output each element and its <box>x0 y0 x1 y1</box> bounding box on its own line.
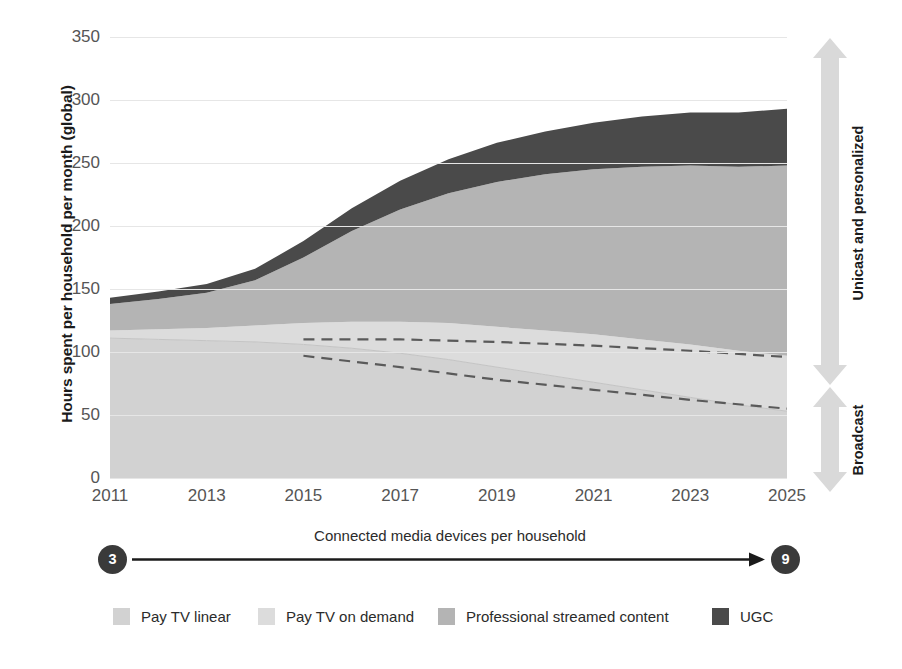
range-annotations: Unicast and personalized Broadcast <box>800 30 902 500</box>
y-axis-tick-label: 250 <box>38 153 100 173</box>
gridline <box>110 163 787 164</box>
legend-item[interactable]: Pay TV on demand <box>258 602 414 630</box>
y-axis-tick-label: 350 <box>38 27 100 47</box>
plot-area <box>110 37 787 478</box>
gridline <box>110 100 787 101</box>
legend-item[interactable]: UGC <box>712 602 773 630</box>
legend-swatch-icon <box>258 608 275 625</box>
chart-page: Hours spent per household per month (glo… <box>0 0 902 669</box>
devices-arrow-head <box>749 553 765 567</box>
gridline <box>110 37 787 38</box>
chart-legend: Pay TV linearPay TV on demandProfessiona… <box>0 602 902 642</box>
gridline <box>110 478 787 479</box>
legend-label: Pay TV linear <box>141 608 231 625</box>
legend-label: Pay TV on demand <box>286 608 414 625</box>
broadcast-range-arrow <box>813 387 847 492</box>
x-axis-tick-label: 2015 <box>263 486 343 506</box>
stacked-area-chart <box>110 37 787 478</box>
legend-swatch-icon <box>438 608 455 625</box>
legend-label: Professional streamed content <box>466 608 669 625</box>
y-axis-tick-label: 0 <box>38 468 100 488</box>
y-axis-tick-group: 350300250200150100500 <box>0 37 100 478</box>
y-axis-tick-label: 100 <box>38 342 100 362</box>
legend-item[interactable]: Pay TV linear <box>113 602 231 630</box>
x-axis-tick-label: 2017 <box>360 486 440 506</box>
legend-item[interactable]: Professional streamed content <box>438 602 669 630</box>
gridline <box>110 226 787 227</box>
x-axis-tick-label: 2011 <box>70 486 150 506</box>
x-axis-tick-label: 2019 <box>457 486 537 506</box>
x-axis-tick-label: 2023 <box>650 486 730 506</box>
unicast-range-arrow <box>813 38 847 385</box>
gridline <box>110 352 787 353</box>
unicast-range-label: Unicast and personalized <box>850 103 866 323</box>
y-axis-tick-label: 50 <box>38 405 100 425</box>
broadcast-range-label: Broadcast <box>850 380 866 500</box>
legend-swatch-icon <box>712 608 729 625</box>
gridline <box>110 289 787 290</box>
legend-label: UGC <box>740 608 773 625</box>
connected-devices-annotation: 3 9 Connected media devices per househol… <box>0 527 902 591</box>
devices-arrow-icon <box>0 527 902 591</box>
x-axis-tick-label: 2013 <box>167 486 247 506</box>
y-axis-tick-label: 300 <box>38 90 100 110</box>
y-axis-tick-label: 150 <box>38 279 100 299</box>
gridline <box>110 415 787 416</box>
y-axis-tick-label: 200 <box>38 216 100 236</box>
x-axis-tick-label: 2021 <box>554 486 634 506</box>
legend-swatch-icon <box>113 608 130 625</box>
